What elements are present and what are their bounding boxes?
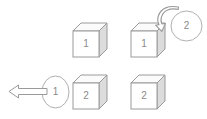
curved-arrow-icon: [148, 4, 196, 38]
cube-label: 1: [73, 31, 99, 57]
cube-bottom-right: 2: [131, 75, 171, 115]
curved-arrow-outline: [156, 6, 179, 31]
left-arrow-icon: [8, 84, 48, 100]
left-arrow-outline: [9, 85, 47, 98]
diagram-canvas: 1 1 2 2 2: [0, 0, 207, 119]
cube-label: 2: [73, 83, 99, 109]
arrow-straight-bottom-left: [8, 84, 48, 100]
cube-bottom-left: 2: [73, 75, 113, 115]
cube-label: 2: [131, 83, 157, 109]
arrow-curved-top-right: [148, 4, 196, 38]
cube-top-left: 1: [73, 23, 113, 63]
